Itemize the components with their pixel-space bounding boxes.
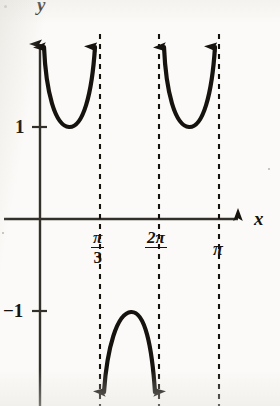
scan-speck [4,5,7,8]
plot-canvas [0,0,280,406]
y-tick-label-neg1: −1 [3,301,23,320]
curve-branch-3 [164,47,215,127]
scan-speck [2,232,4,234]
x-tick-2pi-over-3-denominator [145,248,167,249]
curve-branch-2 [104,312,155,392]
x-tick-pi-over-3-denominator: 3 [91,248,104,266]
x-tick-label-pi: π [213,240,223,258]
x-tick-label-pi-over-3: π 3 [91,229,104,266]
x-tick-label-2pi-over-3: 2π [145,229,167,249]
y-axis [32,44,47,406]
scan-speck [268,168,270,170]
y-axis-label: y [37,0,45,14]
x-tick-2pi-over-3-numerator: 2π [145,229,167,248]
curve-branch-1 [44,47,95,127]
x-axis-label: x [254,209,264,228]
y-tick-label-1: 1 [15,117,25,136]
x-tick-pi-over-3-numerator: π [91,229,104,248]
graph-figure: y x 1 −1 π 3 2π π [0,0,280,406]
